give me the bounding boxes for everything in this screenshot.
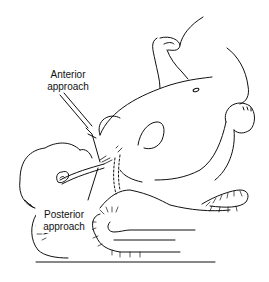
anterior-approach-label: Anterior approach — [38, 69, 98, 93]
illustration-canvas: Anterior approach Posterior approach — [0, 0, 269, 282]
posterior-approach-label: Posterior approach — [36, 209, 92, 233]
posterior-label-line1: Posterior — [36, 209, 92, 221]
anterior-label-line2: approach — [38, 81, 98, 93]
anterior-label-line1: Anterior — [38, 69, 98, 81]
posterior-label-line2: approach — [36, 221, 92, 233]
anatomical-drawing — [0, 0, 269, 282]
